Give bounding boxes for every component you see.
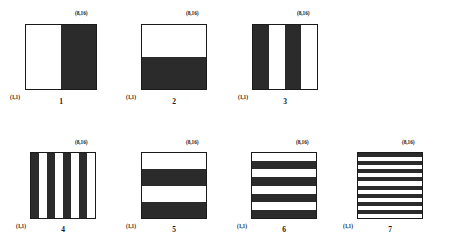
origin-coordinate-label: (1,1)	[16, 224, 26, 229]
panel-number-label: 4	[30, 226, 96, 234]
pattern-band	[142, 57, 206, 89]
texture-pattern-figure: (8,16)(1,1)1(8,16)(1,1)2(8,16)(1,1)3(8,1…	[0, 0, 450, 247]
origin-coordinate-label: (1,1)	[237, 224, 247, 229]
pattern-band	[252, 177, 316, 185]
pattern-band	[269, 25, 285, 89]
pattern-band	[55, 153, 63, 218]
panel-number-label: 6	[251, 226, 317, 234]
panel-number-label: 7	[357, 226, 423, 234]
extent-coordinate-label: (8,16)	[75, 11, 87, 16]
origin-coordinate-label: (1,1)	[126, 95, 136, 100]
origin-coordinate-label: (1,1)	[126, 224, 136, 229]
pattern-band	[301, 25, 317, 89]
extent-coordinate-label: (8,16)	[402, 140, 414, 145]
pattern-band	[142, 186, 206, 202]
extent-coordinate-label: (8,16)	[186, 140, 198, 145]
pattern-band	[79, 153, 87, 218]
pattern-band	[142, 169, 206, 185]
pattern-band	[285, 25, 301, 89]
extent-coordinate-label: (8,16)	[297, 11, 309, 16]
pattern-band	[252, 186, 316, 194]
pattern-box	[141, 152, 207, 219]
pattern-box	[252, 24, 318, 90]
pattern-band	[252, 202, 316, 210]
panel-number-label: 1	[25, 98, 97, 106]
pattern-band	[26, 25, 61, 89]
panel-number-label: 5	[141, 226, 207, 234]
origin-coordinate-label: (1,1)	[10, 95, 20, 100]
pattern-box	[357, 152, 423, 219]
pattern-band	[31, 153, 39, 218]
panel-number-label: 2	[141, 98, 207, 106]
pattern-band	[142, 153, 206, 169]
pattern-band	[39, 153, 47, 218]
pattern-band	[358, 214, 422, 218]
pattern-box	[25, 24, 97, 90]
pattern-band	[252, 194, 316, 202]
origin-coordinate-label: (1,1)	[343, 224, 353, 229]
pattern-band	[47, 153, 55, 218]
pattern-band	[252, 153, 316, 161]
pattern-band	[63, 153, 71, 218]
pattern-band	[61, 25, 96, 89]
pattern-box	[251, 152, 317, 219]
pattern-box	[30, 152, 96, 219]
pattern-band	[252, 161, 316, 169]
pattern-band	[252, 210, 316, 218]
pattern-band	[71, 153, 79, 218]
pattern-band	[142, 25, 206, 57]
pattern-band	[252, 169, 316, 177]
pattern-band	[142, 202, 206, 218]
pattern-band	[87, 153, 95, 218]
origin-coordinate-label: (1,1)	[238, 95, 248, 100]
extent-coordinate-label: (8,16)	[296, 140, 308, 145]
panel-number-label: 3	[252, 98, 318, 106]
extent-coordinate-label: (8,16)	[75, 140, 87, 145]
pattern-box	[141, 24, 207, 90]
pattern-band	[253, 25, 269, 89]
extent-coordinate-label: (8,16)	[186, 11, 198, 16]
